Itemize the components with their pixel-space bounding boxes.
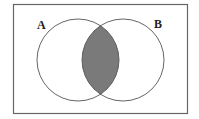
set-a-label: A	[37, 18, 46, 32]
venn-diagram: A B	[0, 0, 199, 119]
set-b-label: B	[154, 17, 162, 31]
